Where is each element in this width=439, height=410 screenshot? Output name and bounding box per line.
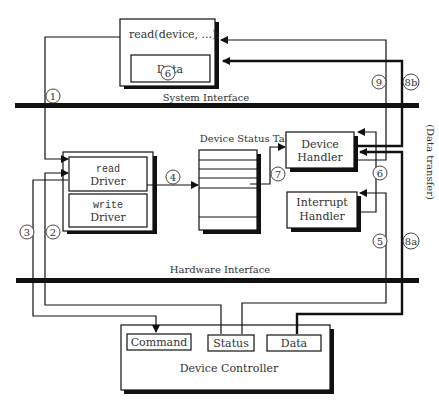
step-8b: 8b xyxy=(405,77,418,88)
step-5: 5 xyxy=(377,236,383,247)
write-driver-keyword: write xyxy=(93,200,123,211)
interrupt-handler-label-2: Handler xyxy=(299,210,345,223)
device-status-table xyxy=(199,150,261,234)
step-2: 2 xyxy=(50,227,56,238)
device-handler-label-2: Handler xyxy=(297,151,343,164)
device-controller: Command Status Data Device Controller xyxy=(121,325,334,394)
device-controller-label: Device Controller xyxy=(180,362,279,375)
hardware-interface-label: Hardware Interface xyxy=(170,264,271,275)
interrupt-handler-label-1: Interrupt xyxy=(296,196,348,209)
system-interface-bus xyxy=(15,103,419,108)
driver-box: read Driver write Driver xyxy=(63,152,157,234)
write-driver-label: Driver xyxy=(90,211,126,224)
step-6-handler: 6 xyxy=(377,168,383,179)
step-6-data: 6 xyxy=(165,68,171,79)
user-process-box: read(device, ...); Data xyxy=(64,19,220,89)
data-register-label: Data xyxy=(281,337,308,350)
step-7: 7 xyxy=(275,169,281,180)
device-handler: Device Handler xyxy=(286,132,358,172)
step-1: 1 xyxy=(50,91,56,102)
step-9: 9 xyxy=(376,77,382,88)
step-4: 4 xyxy=(170,172,176,183)
read-driver-keyword: read xyxy=(96,164,120,175)
device-io-diagram: read(device, ...); Data System Interface… xyxy=(0,0,439,410)
command-label: Command xyxy=(131,336,188,349)
data-transfer-label: (Data transfer) xyxy=(425,124,436,200)
interrupt-handler: Interrupt Handler xyxy=(287,192,361,232)
step-3: 3 xyxy=(24,227,30,238)
read-call-label: read(device, ...); xyxy=(129,28,220,41)
device-status-table-label: Device Status Table xyxy=(200,133,301,144)
step-8a: 8a xyxy=(405,236,417,247)
system-interface-label: System Interface xyxy=(163,92,250,103)
read-driver-label: Driver xyxy=(90,175,126,188)
status-label: Status xyxy=(213,337,249,350)
device-handler-label-1: Device xyxy=(301,138,339,151)
hardware-interface-bus xyxy=(16,278,419,283)
